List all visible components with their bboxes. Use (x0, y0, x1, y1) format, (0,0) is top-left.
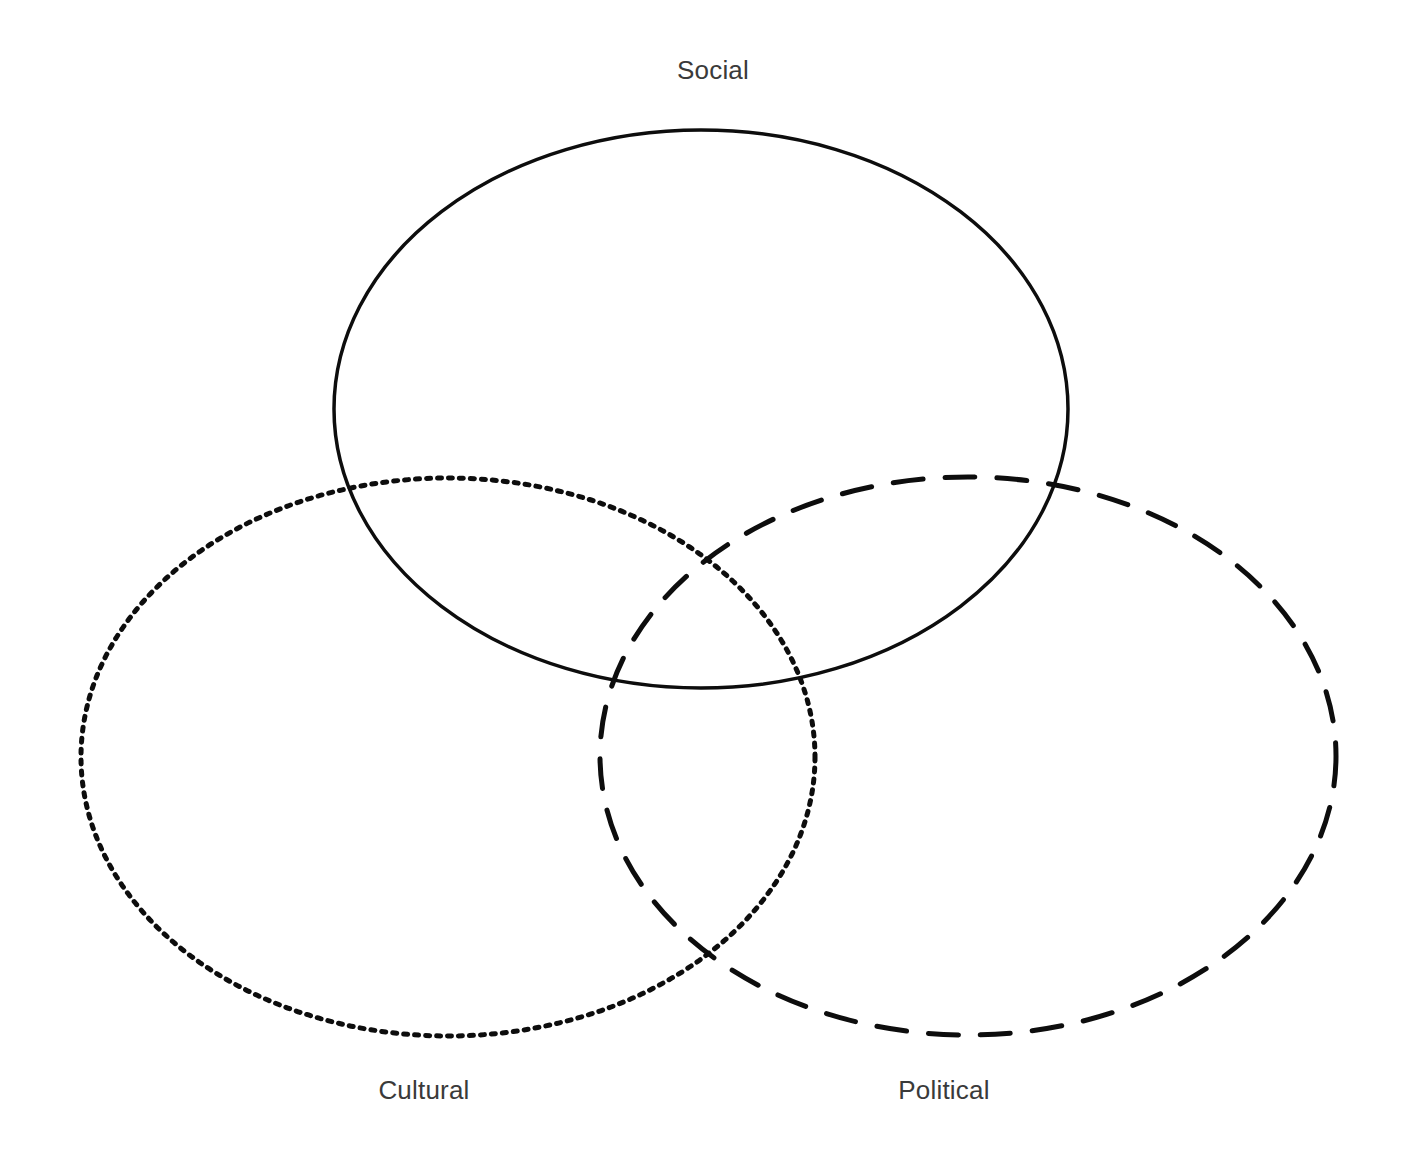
label-cultural: Cultural (378, 1077, 469, 1103)
ellipse-social[interactable] (334, 130, 1068, 688)
venn-diagram-canvas (0, 0, 1404, 1151)
label-social: Social (677, 57, 749, 83)
label-political: Political (898, 1077, 989, 1103)
venn-diagram: Social Cultural Political (0, 0, 1404, 1151)
